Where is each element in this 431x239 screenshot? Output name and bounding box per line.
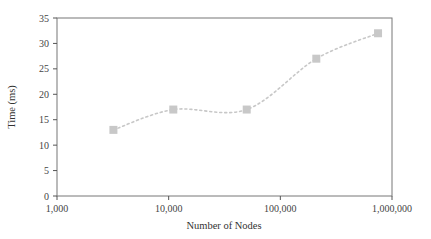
- x-tick-label: 100,000: [264, 203, 297, 214]
- y-tick-label: 35: [39, 13, 49, 24]
- x-tick-label: 10,000: [155, 203, 183, 214]
- x-axis: 1,00010,000100,0001,000,000: [46, 196, 412, 214]
- data-point-marker: [169, 106, 177, 114]
- y-tick-label: 5: [44, 165, 49, 176]
- x-axis-title: Number of Nodes: [186, 220, 261, 231]
- y-axis-title: Time (ms): [6, 85, 18, 129]
- x-tick-label: 1,000,000: [372, 203, 412, 214]
- series-line: [113, 33, 378, 130]
- y-axis: 05101520253035: [39, 13, 57, 202]
- y-tick-label: 30: [39, 38, 49, 49]
- plot-border: [57, 18, 392, 196]
- y-tick-label: 0: [44, 191, 49, 202]
- x-tick-label: 1,000: [46, 203, 69, 214]
- data-point-marker: [374, 29, 382, 37]
- y-tick-label: 20: [39, 89, 49, 100]
- y-tick-label: 10: [39, 140, 49, 151]
- data-point-marker: [243, 106, 251, 114]
- y-tick-label: 25: [39, 63, 49, 74]
- plot-frame: [57, 18, 392, 196]
- data-point-marker: [312, 55, 320, 63]
- series-layer: [109, 29, 382, 134]
- data-point-marker: [109, 126, 117, 134]
- line-chart: 05101520253035 1,00010,000100,0001,000,0…: [0, 0, 431, 239]
- y-tick-label: 15: [39, 114, 49, 125]
